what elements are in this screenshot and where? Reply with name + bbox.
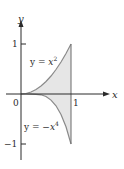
x-axis-label: x: [112, 89, 118, 100]
origin-label: 0: [13, 98, 19, 108]
y-tick-top-label: 1: [12, 39, 18, 49]
label-y-equals-x-squared: y = x2: [29, 55, 57, 67]
x-tick-label: 1: [73, 98, 79, 108]
label-y-equals-neg-x-fourth: y = −x4: [23, 120, 59, 132]
x-axis-arrow-icon: [103, 92, 110, 97]
region-diagram: y x 0 1 1 −1 y = x2 y = −x4: [0, 0, 124, 169]
y-axis-label: y: [17, 13, 24, 24]
y-tick-bottom-label: −1: [4, 139, 17, 149]
